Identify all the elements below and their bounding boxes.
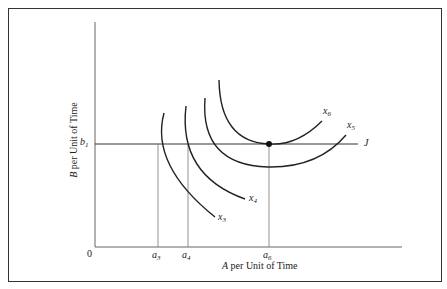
curve-x6 — [219, 80, 322, 144]
tick-b1: b1 — [80, 136, 89, 149]
tick-a3: a3 — [152, 249, 161, 262]
tick-a6-sub: 6 — [268, 254, 272, 262]
x-axis-label: A per Unit of Time — [222, 260, 298, 271]
tick-a4-sub: 4 — [187, 254, 191, 262]
y-axis-label: B per Unit of Time — [68, 102, 79, 178]
curve-x3-sub: 3 — [222, 216, 226, 224]
curve-label-x6: x6 — [323, 105, 331, 118]
line-j-label: J — [364, 137, 368, 148]
tick-a4: a4 — [182, 249, 191, 262]
tick-b1-sub: 1 — [85, 141, 89, 149]
tangency-point — [266, 141, 272, 147]
y-axis-var: B — [68, 172, 79, 178]
tick-a3-sub: 3 — [157, 254, 161, 262]
curve-x5-sub: 5 — [351, 124, 355, 132]
curve-x4-sub: 4 — [253, 197, 257, 205]
origin-label: 0 — [87, 248, 92, 259]
y-axis-text: per Unit of Time — [68, 102, 79, 171]
curve-label-x3: x3 — [218, 211, 226, 224]
curve-label-x4: x4 — [249, 192, 257, 205]
curve-x4 — [185, 106, 245, 199]
curve-x6-sub: 6 — [327, 110, 331, 118]
tick-a6: a6 — [263, 249, 272, 262]
curve-label-x5: x5 — [347, 119, 355, 132]
